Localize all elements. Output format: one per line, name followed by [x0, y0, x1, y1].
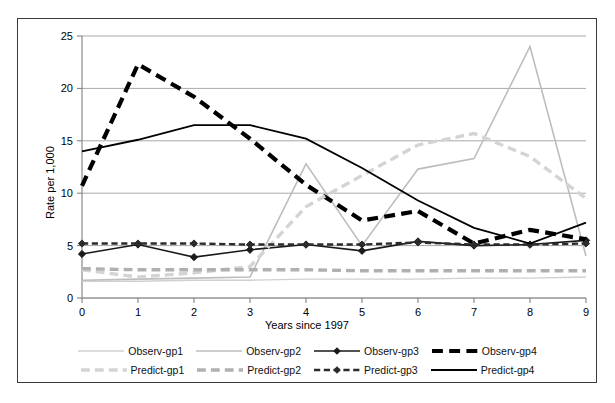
chart-legend: Observ-gp1Observ-gp2Observ-gp3Observ-gp4… — [18, 341, 596, 381]
legend-swatch-icon — [195, 345, 243, 357]
legend-swatch-icon — [431, 345, 479, 357]
tick-label-x: 0 — [79, 306, 85, 318]
series-marker-observ-gp3 — [78, 250, 85, 257]
series-marker-predict-gp3 — [246, 241, 253, 248]
legend-label: Predict-gp1 — [131, 364, 185, 376]
legend-item-observ-gp4[interactable]: Observ-gp4 — [431, 345, 537, 357]
legend-swatch-icon — [313, 364, 361, 376]
tick-label-y: 25 — [61, 30, 73, 42]
legend-item-predict-gp2[interactable]: Predict-gp2 — [196, 364, 301, 376]
legend-swatch-icon — [196, 364, 244, 376]
legend-item-predict-gp1[interactable]: Predict-gp1 — [80, 364, 185, 376]
tick-label-x: 8 — [527, 306, 533, 318]
legend-swatch-icon — [430, 364, 478, 376]
legend-label: Observ-gp2 — [246, 345, 301, 357]
tick-label-y: 5 — [67, 240, 73, 252]
chart-svg: 05101520250123456789 — [18, 19, 596, 319]
legend-item-observ-gp1[interactable]: Observ-gp1 — [77, 345, 183, 357]
tick-label-x: 1 — [135, 306, 141, 318]
legend-label: Predict-gp3 — [364, 364, 418, 376]
series-line-predict-gp2 — [82, 269, 586, 271]
tick-label-y: 15 — [61, 135, 73, 147]
series-line-predict-gp4 — [82, 125, 586, 243]
legend-row-observed: Observ-gp1Observ-gp2Observ-gp3Observ-gp4 — [18, 341, 596, 360]
legend-label: Predict-gp2 — [247, 364, 301, 376]
legend-swatch-icon — [80, 364, 128, 376]
tick-label-x: 2 — [191, 306, 197, 318]
tick-label-x: 9 — [583, 306, 589, 318]
legend-swatch-icon — [313, 345, 361, 357]
tick-label-x: 3 — [247, 306, 253, 318]
legend-item-observ-gp3[interactable]: Observ-gp3 — [313, 345, 419, 357]
y-axis-title: Rate per 1,000 — [44, 146, 56, 219]
tick-label-x: 5 — [359, 306, 365, 318]
tick-label-x: 4 — [303, 306, 309, 318]
plot-area: 05101520250123456789 Rate per 1,000 Year… — [18, 19, 596, 337]
legend-item-predict-gp3[interactable]: Predict-gp3 — [313, 364, 418, 376]
legend-label: Observ-gp4 — [482, 345, 537, 357]
legend-item-predict-gp4[interactable]: Predict-gp4 — [430, 364, 535, 376]
legend-label: Observ-gp1 — [128, 345, 183, 357]
series-marker-observ-gp3 — [190, 254, 197, 261]
tick-label-x: 7 — [471, 306, 477, 318]
legend-label: Predict-gp4 — [481, 364, 535, 376]
series-marker-predict-gp3 — [302, 241, 309, 248]
series-line-observ-gp3 — [82, 240, 586, 257]
tick-label-y: 0 — [67, 292, 73, 304]
tick-label-y: 10 — [61, 187, 73, 199]
legend-swatch-icon — [77, 345, 125, 357]
tick-label-y: 20 — [61, 82, 73, 94]
legend-row-predicted: Predict-gp1Predict-gp2Predict-gp3Predict… — [18, 360, 596, 379]
tick-label-x: 6 — [415, 306, 421, 318]
chart-figure: 05101520250123456789 Rate per 1,000 Year… — [17, 18, 597, 383]
x-axis-title: Years since 1997 — [18, 319, 596, 331]
legend-label: Observ-gp3 — [364, 345, 419, 357]
legend-item-observ-gp2[interactable]: Observ-gp2 — [195, 345, 301, 357]
